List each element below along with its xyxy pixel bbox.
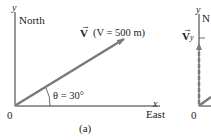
east-label: East [146,109,165,120]
angle-label: θ = 30° [53,91,84,102]
origin-label: 0 [7,110,13,121]
vector-symbol: → V [80,28,88,39]
north-label: North [19,15,45,26]
panel-b-y-axis-label: y [196,5,200,15]
vy-symbol: → Vy [182,31,194,42]
vector-annotation: (V = 500 m) [93,28,145,39]
angle-arc [46,88,50,106]
vector-arrow-icon: → [81,22,90,31]
caption-a: (a) [79,123,91,134]
panel-b-north-label: N [202,13,210,24]
y-axis-label: y [12,3,16,13]
vy-subscript: y [190,33,194,42]
vector-diagram: y North → V (V = 500 m) θ = 30° x East 0… [0,0,211,140]
panel-b-vector-stub [200,97,211,105]
vector-arrow-icon: → [183,25,192,34]
panel-b-origin-label: 0 [191,110,197,121]
